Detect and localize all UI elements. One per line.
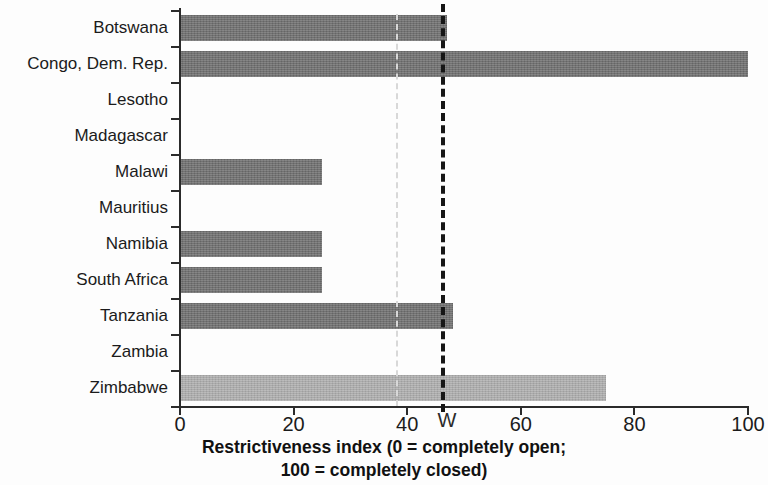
- average-reference-line: [441, 4, 445, 412]
- bar-row: [180, 46, 748, 82]
- x-axis-title-line-2: 100 = completely closed): [0, 459, 768, 482]
- plot-area: [180, 10, 748, 406]
- bar-row: [180, 262, 748, 298]
- bar-row: [180, 82, 748, 118]
- x-axis-tick-label: 80: [623, 413, 645, 436]
- y-axis-label-madagascar: Madagascar: [0, 127, 168, 144]
- bar-row: [180, 370, 748, 406]
- bar-row: [180, 10, 748, 46]
- y-axis-label-botswana: Botswana: [0, 19, 168, 36]
- bar: [180, 15, 447, 41]
- bar: [180, 51, 748, 77]
- y-axis-label-namibia: Namibia: [0, 235, 168, 252]
- y-axis-label-lesotho: Lesotho: [0, 91, 168, 108]
- y-axis-label-zambia: Zambia: [0, 343, 168, 360]
- bar-row: [180, 190, 748, 226]
- bar: [180, 303, 453, 329]
- bar: [180, 375, 606, 401]
- bar-row: [180, 154, 748, 190]
- scan-artifact-label: W: [438, 409, 457, 432]
- y-axis-label-congo-dem-rep: Congo, Dem. Rep.: [0, 55, 168, 72]
- y-axis-line: [179, 8, 181, 408]
- x-axis-tick-label: 100: [731, 413, 764, 436]
- secondary-reference-line: [396, 14, 398, 406]
- bar: [180, 231, 322, 257]
- bar: [180, 267, 322, 293]
- y-axis-label-zimbabwe: Zimbabwe: [0, 379, 168, 396]
- x-axis-tick-label: 0: [174, 413, 185, 436]
- x-axis-title: Restrictiveness index (0 = completely op…: [0, 436, 768, 482]
- bar-row: [180, 118, 748, 154]
- y-axis-label-south-africa: South Africa: [0, 271, 168, 288]
- bar-row: [180, 298, 748, 334]
- bar-row: [180, 334, 748, 370]
- y-axis-label-tanzania: Tanzania: [0, 307, 168, 324]
- bar: [180, 159, 322, 185]
- y-axis-label-malawi: Malawi: [0, 163, 168, 180]
- x-axis-line: [179, 406, 749, 408]
- x-axis-tick-label: 40: [396, 413, 418, 436]
- x-axis-tick-label: 60: [510, 413, 532, 436]
- y-axis-label-mauritius: Mauritius: [0, 199, 168, 216]
- bar-row: [180, 226, 748, 262]
- x-axis-tick-label: 20: [282, 413, 304, 436]
- bar-chart: 020406080100 W Restrictiveness index (0 …: [0, 0, 768, 485]
- x-axis-title-line-1: Restrictiveness index (0 = completely op…: [0, 436, 768, 459]
